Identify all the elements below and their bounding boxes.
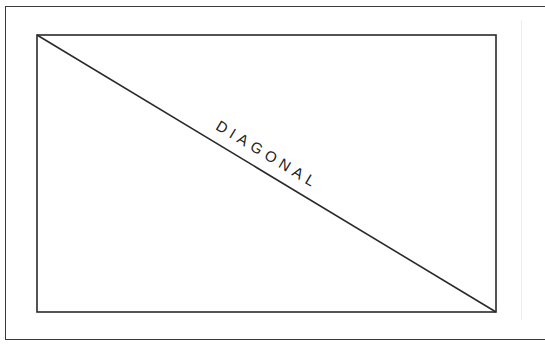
diagonal-label: DIAGONAL <box>213 117 322 192</box>
diagonal-line <box>37 35 496 312</box>
